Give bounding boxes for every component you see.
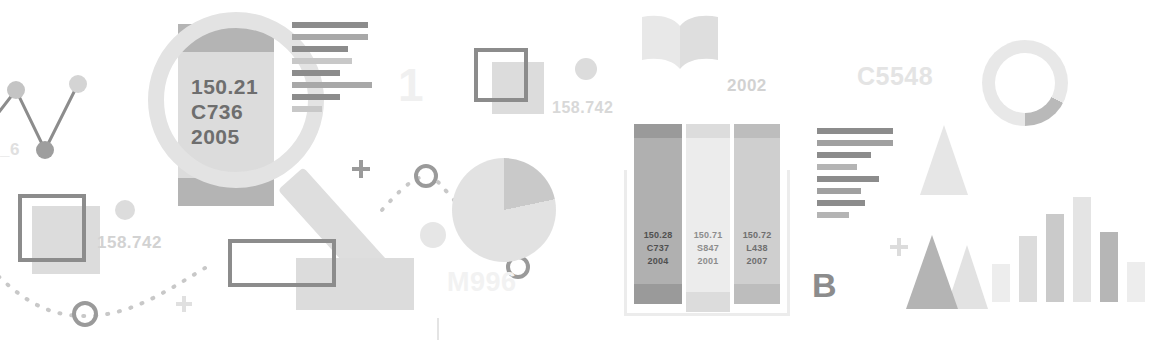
outlined-rectangle-mid <box>228 239 336 287</box>
triangle-top <box>920 125 968 195</box>
dot-medium-mid <box>420 222 446 248</box>
spine-author-code: L438 <box>734 242 780 255</box>
text-line <box>817 128 893 134</box>
dotted-path-left <box>0 250 250 340</box>
dotted-path-node <box>416 166 436 186</box>
text-line <box>292 82 372 88</box>
text-line <box>817 212 849 218</box>
text-lines-lower <box>817 128 893 224</box>
donut-hole <box>995 53 1055 113</box>
watermark-text: 158.742 <box>97 233 162 253</box>
text-line <box>817 152 871 158</box>
watermark-text: 158.742 <box>552 99 613 117</box>
plus-marker-mid <box>352 160 370 178</box>
dot-large-top <box>575 58 597 80</box>
bar <box>1073 197 1091 302</box>
spine-cap-bottom <box>686 292 730 312</box>
watermark-text: 1 <box>398 58 424 112</box>
dot-medium-left <box>115 200 135 220</box>
spine-call-number: 150.28 <box>634 229 682 242</box>
triangle-dark-front <box>906 235 958 309</box>
text-line <box>292 106 322 112</box>
spine-year: 2007 <box>734 255 780 268</box>
text-line <box>817 188 861 194</box>
book-spine: 150.28C7372004 <box>634 124 682 304</box>
infographic-canvas: 150.21 C736 2005 1 <box>0 0 1165 344</box>
bar <box>1100 232 1118 302</box>
spine-call-number: 150.71 <box>686 229 730 242</box>
text-line <box>817 200 865 206</box>
spine-call-number: 150.72 <box>734 229 780 242</box>
spine-label: 150.71S8472001 <box>686 229 730 268</box>
text-lines-upper <box>292 22 372 118</box>
book-spine: 150.71S8472001 <box>686 124 730 312</box>
watermark-text: M996 <box>447 267 517 298</box>
spine-cap-bottom <box>634 284 682 304</box>
text-line <box>292 70 340 76</box>
spine-author-code: S847 <box>686 242 730 255</box>
text-line <box>817 176 879 182</box>
plus-marker-left <box>176 296 192 312</box>
spine-cap-bottom <box>734 284 780 304</box>
spine-cap-top <box>734 124 780 138</box>
gray-bar-chart <box>992 190 1152 302</box>
bar <box>992 264 1010 302</box>
text-line <box>292 46 348 52</box>
watermark-text: _6 <box>0 140 20 160</box>
bar <box>1046 214 1064 302</box>
spine-year: 2004 <box>634 255 682 268</box>
book-spine: 150.72L4382007 <box>734 124 780 304</box>
text-line <box>292 22 368 28</box>
bar <box>1019 236 1037 302</box>
spine-cap-top <box>634 124 682 138</box>
donut-chart <box>982 40 1068 126</box>
spine-cap-top <box>686 124 730 138</box>
pie-chart <box>452 158 556 262</box>
spine-year: 2001 <box>686 255 730 268</box>
watermark-text: C5548 <box>857 62 933 91</box>
text-line <box>292 34 368 40</box>
dotted-path-node <box>74 303 96 325</box>
watermark-text: B <box>812 266 837 305</box>
open-book-icon <box>638 12 722 74</box>
watermark-text: 2002 <box>727 76 767 96</box>
spine-label: 150.28C7372004 <box>634 229 682 268</box>
text-line <box>817 140 893 146</box>
outlined-square-upper-mid <box>474 48 528 102</box>
text-line <box>817 164 857 170</box>
spine-label: 150.72L4382007 <box>734 229 780 268</box>
bookshelf-spines: 150.28C7372004150.71S8472001150.72L43820… <box>634 124 784 312</box>
line-chart-marker <box>7 81 25 99</box>
text-line <box>292 94 340 100</box>
bar <box>1127 262 1145 302</box>
bottom-tick-mark <box>437 318 439 340</box>
spine-author-code: C737 <box>634 242 682 255</box>
line-chart-marker <box>69 75 87 93</box>
line-chart-marker <box>36 141 54 159</box>
text-line <box>292 58 352 64</box>
